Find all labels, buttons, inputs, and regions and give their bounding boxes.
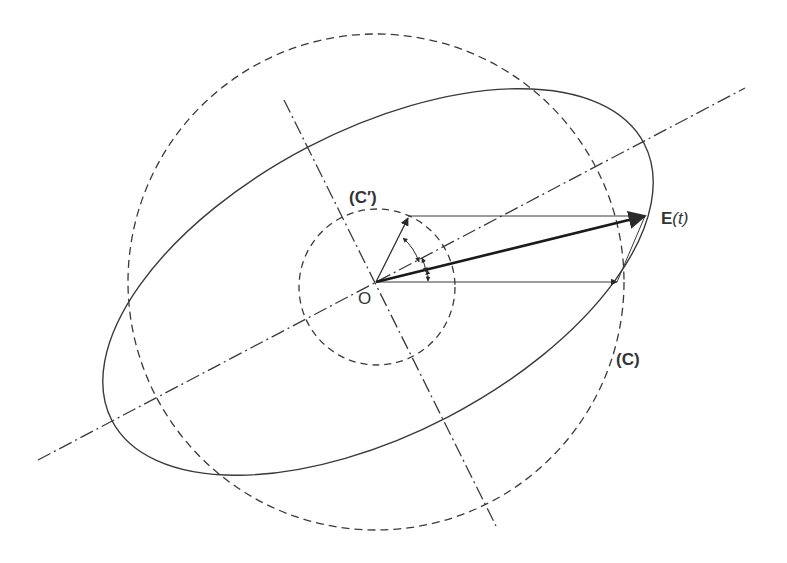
angle-arc-1 [403,238,419,262]
angle-arc-3 [427,270,428,281]
minor-axis [284,100,496,526]
polarization-diagram: O (C′) (C) E(t) [0,0,787,563]
label-origin: O [358,289,371,308]
rotating-vector-arrow [376,218,408,282]
major-axis [38,88,745,460]
small-circle-c-prime [299,209,455,365]
field-vector-arrow [376,216,645,282]
label-field-vector: E(t) [661,209,688,228]
label-field-vector-bold: E [661,209,672,228]
label-large-circle: (C) [616,350,640,369]
label-small-circle: (C′) [349,188,377,207]
label-field-vector-rest: (t) [672,209,688,228]
